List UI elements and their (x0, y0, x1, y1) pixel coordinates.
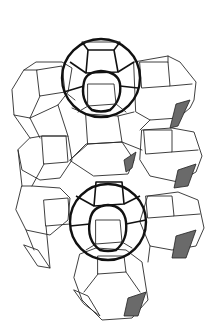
zeolite-cage-drawing (0, 0, 213, 335)
highlighted-cage-lower (70, 182, 146, 260)
highlighted-cage-upper (62, 39, 140, 117)
shaded-face (170, 100, 190, 128)
shaded-face (174, 164, 196, 188)
shaded-face (124, 152, 136, 172)
shaded-face (124, 292, 146, 316)
framework-diagram (0, 0, 213, 335)
center-connecting-cages (70, 108, 148, 320)
shaded-face (172, 230, 196, 258)
